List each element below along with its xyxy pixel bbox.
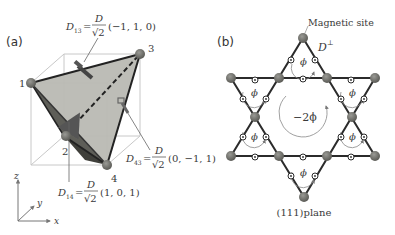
vertex-4-label: 4: [111, 173, 117, 184]
svg-text:13: 13: [74, 27, 82, 34]
vertex-3-label: 3: [148, 43, 154, 54]
figure: (a): [0, 0, 395, 235]
axis-z-label: z: [13, 171, 19, 181]
vertex-1-node: [26, 78, 36, 88]
coordinate-axes: [18, 180, 50, 221]
magnetic-site-label: Magnetic site: [308, 17, 374, 28]
panel-a: (a): [6, 13, 216, 226]
formula-d14: D 14 = D √2 (1, 0, 1): [57, 179, 140, 204]
svg-text:14: 14: [66, 193, 74, 200]
svg-text:ϕ: ϕ: [300, 56, 307, 67]
svg-text:(−1, 1, 0): (−1, 1, 0): [108, 21, 156, 32]
svg-text:ϕ: ϕ: [251, 131, 258, 142]
leader-d13: [84, 38, 98, 62]
svg-text:ϕ: ϕ: [251, 87, 258, 98]
svg-text:43: 43: [134, 159, 142, 166]
svg-text:D: D: [125, 153, 134, 164]
panel-b: (b) ϕ ϕ ϕ ϕ ϕ ϕ −2ϕ: [217, 17, 380, 218]
vertex-3-node: [135, 49, 145, 59]
svg-text:D: D: [86, 179, 95, 190]
svg-text:ϕ: ϕ: [349, 131, 356, 142]
axis-x-label: x: [54, 216, 59, 226]
panel-a-label: (a): [6, 35, 23, 49]
svg-text:√2: √2: [92, 27, 105, 38]
svg-text:√2: √2: [84, 193, 97, 204]
vertex-4-node: [102, 160, 112, 170]
svg-text:ϕ: ϕ: [349, 87, 356, 98]
svg-text:=: =: [83, 21, 91, 32]
d-perp-sup: ⊥: [327, 39, 334, 47]
svg-text:D: D: [94, 13, 103, 24]
svg-text:√2: √2: [152, 159, 165, 170]
svg-text:(1, 0, 1): (1, 0, 1): [100, 187, 140, 198]
svg-text:ϕ: ϕ: [300, 167, 307, 178]
vertex-2-node: [61, 131, 71, 141]
svg-text:D: D: [154, 145, 163, 156]
center-flux-label: −2ϕ: [293, 111, 317, 124]
svg-text:=: =: [143, 153, 151, 164]
svg-text:D: D: [65, 21, 74, 32]
axis-y-label: y: [36, 198, 43, 208]
svg-text:(0, −1, 1): (0, −1, 1): [168, 153, 216, 164]
svg-text:=: =: [75, 187, 83, 198]
formula-d13: D 13 = D √2 (−1, 1, 0): [65, 13, 156, 38]
svg-text:D: D: [57, 187, 66, 198]
panel-b-label: (b): [217, 35, 234, 49]
vertex-1-label: 1: [19, 78, 25, 89]
d-perp-label: D: [317, 41, 327, 54]
plane-label: (111)plane: [277, 207, 332, 218]
leader-d43: [126, 110, 150, 150]
vertex-2-label: 2: [62, 146, 68, 157]
formula-d43: D 43 = D √2 (0, −1, 1): [125, 145, 216, 170]
